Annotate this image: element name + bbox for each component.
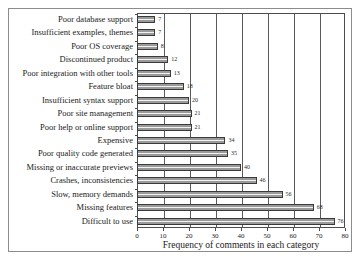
bar-row: 76 (137, 215, 345, 228)
bar (137, 218, 335, 225)
bar (137, 29, 155, 36)
bar-value-label: 8 (161, 40, 164, 53)
category-label: Insufficient syntax support (42, 94, 133, 107)
bar (137, 191, 283, 198)
chart-page: Poor database supportInsufficient exampl… (0, 0, 361, 261)
bar-row: 7 (137, 13, 345, 26)
bar-row: 46 (137, 174, 345, 187)
bar-row: 56 (137, 188, 345, 201)
bar (137, 137, 225, 144)
bar (137, 177, 257, 184)
bar (137, 97, 189, 104)
bar (137, 43, 158, 50)
bar (137, 204, 314, 211)
bar-value-label: 56 (286, 188, 292, 201)
category-axis-tick (135, 68, 138, 69)
bar-value-label: 40 (244, 161, 250, 174)
category-axis-tick (135, 189, 138, 190)
bar (137, 124, 192, 131)
category-label: Poor integration with other tools (23, 67, 134, 80)
category-axis-tick (135, 108, 138, 109)
bar (137, 150, 228, 157)
category-label: Poor site management (57, 107, 133, 120)
bar (137, 164, 241, 171)
category-axis-tick (135, 122, 138, 123)
bar-value-label: 7 (158, 13, 161, 26)
category-label: Slow, memory demands (51, 188, 133, 201)
bar-value-label: 76 (338, 215, 344, 228)
category-axis-tick (135, 14, 138, 15)
category-label: Difficult to use (82, 215, 133, 228)
bar-row: 20 (137, 94, 345, 107)
category-label: Discontinued product (60, 53, 133, 66)
bar-row: 68 (137, 201, 345, 214)
category-label: Poor quality code generated (38, 147, 133, 160)
bar (137, 70, 171, 77)
bar-row: 34 (137, 134, 345, 147)
category-label: Missing features (77, 201, 133, 214)
bar-value-label: 46 (260, 174, 266, 187)
bar-value-label: 21 (195, 121, 201, 134)
category-axis-tick (135, 41, 138, 42)
bar (137, 16, 155, 23)
category-label: Poor database support (58, 13, 133, 26)
bar-row: 40 (137, 161, 345, 174)
category-axis-tick (135, 175, 138, 176)
category-axis-tick (135, 135, 138, 136)
x-axis-title: Frequency of comments in each category (137, 240, 345, 250)
category-axis-tick (135, 81, 138, 82)
bar-row: 8 (137, 40, 345, 53)
bar-row: 21 (137, 121, 345, 134)
bar-value-label: 68 (317, 201, 323, 214)
category-axis-tick (135, 202, 138, 203)
bar-value-label: 20 (192, 94, 198, 107)
bar-row: 35 (137, 147, 345, 160)
category-axis-tick (135, 216, 138, 217)
bar (137, 110, 192, 117)
bars-layer: 77812131820212134354046566876 (137, 13, 345, 228)
category-label: Feature bloat (88, 80, 133, 93)
bar-value-label: 18 (187, 80, 193, 93)
category-label: Missing or inaccurate previews (27, 161, 133, 174)
bar (137, 83, 184, 90)
bar-row: 13 (137, 67, 345, 80)
bar (137, 56, 168, 63)
category-axis-labels: Poor database supportInsufficient exampl… (10, 13, 135, 228)
category-label: Expensive (98, 134, 133, 147)
category-label: Poor help or online support (40, 121, 133, 134)
bar-value-label: 13 (174, 67, 180, 80)
bar-row: 21 (137, 107, 345, 120)
bar-value-label: 12 (171, 53, 177, 66)
category-label: Insufficient examples, themes (31, 26, 133, 39)
category-axis-tick (135, 95, 138, 96)
category-label: Poor OS coverage (71, 40, 133, 53)
bar-row: 12 (137, 53, 345, 66)
bar-value-label: 35 (231, 147, 237, 160)
bar-value-label: 7 (158, 26, 161, 39)
bar-row: 7 (137, 26, 345, 39)
category-axis-tick (135, 162, 138, 163)
bar-row: 18 (137, 80, 345, 93)
bar-value-label: 34 (228, 134, 234, 147)
category-axis-tick (135, 148, 138, 149)
category-label: Crashes, inconsistencies (50, 174, 133, 187)
bar-value-label: 21 (195, 107, 201, 120)
category-axis-tick (135, 54, 138, 55)
category-axis-tick (135, 27, 138, 28)
